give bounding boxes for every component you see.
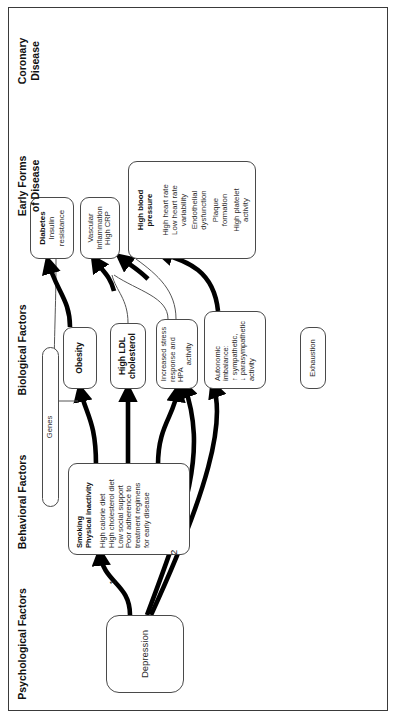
figure-page: Psychological Factors Behavioral Factors… (0, 0, 396, 718)
node-diabetes-line-2: resistance (57, 210, 66, 246)
node-ldl[interactable]: High LDL cholesterol (110, 323, 146, 389)
arrow-behavior-to-obesity (80, 389, 96, 465)
column-header-coronary-line1: Coronary (16, 15, 29, 107)
node-autonomic[interactable]: Autonomic imbalance: ↑ sympathetic, ↓ pa… (204, 311, 266, 389)
node-exhaustion[interactable]: Exhaustion (300, 327, 326, 389)
arrow-autonomic-to-bp (160, 253, 218, 311)
figure-frame: Psychological Factors Behavioral Factors… (8, 7, 388, 711)
node-obesity-heading: Obesity (75, 342, 85, 374)
node-stress[interactable]: Increased stress response and HPA activi… (156, 319, 198, 389)
node-vascular-line-3: High CRP (104, 211, 113, 245)
arrow-behavior-to-stress (158, 389, 178, 465)
node-stress-line-3: activity (185, 343, 193, 366)
node-bp-line-9: activity (242, 198, 251, 222)
node-blood-pressure[interactable]: High blood pressure High heart rate Low … (128, 161, 256, 259)
column-header-early-line2: of Disease (29, 131, 42, 241)
arrow-stress-to-bp (120, 257, 148, 279)
node-obesity[interactable]: Obesity (63, 327, 97, 389)
node-bp-heading-2: pressure (146, 194, 155, 227)
node-autonomic-line-5: activity (248, 318, 256, 381)
column-header-early-line1: Early Forms (16, 131, 29, 241)
node-stress-line-2: response and HPA (169, 326, 186, 382)
node-behavior-heading-2: Physical inactivity (85, 470, 94, 548)
node-behavior[interactable]: Smoking Physical inactivity High calorie… (68, 463, 190, 555)
node-diabetes-line-1: Insulin (47, 216, 56, 239)
node-ldl-heading-2: cholesterol (128, 333, 138, 379)
diagram-canvas: Psychological Factors Behavioral Factors… (8, 7, 388, 711)
line-stress-to-bp (136, 259, 176, 319)
node-bp-line-5: dysfunction (200, 190, 209, 229)
node-genes[interactable]: Genes (42, 347, 59, 507)
node-genes-label: Genes (46, 416, 55, 438)
column-header-psychological: Psychological Factors (16, 585, 29, 703)
node-vascular[interactable]: Vascular Inflammation High CRP (80, 197, 120, 259)
node-exhaustion-label: Exhaustion (309, 339, 318, 377)
arrow-to-vascular (94, 259, 114, 291)
node-depression[interactable]: Depression (106, 615, 184, 693)
node-bp-line-7: formation (221, 194, 230, 227)
arrow-label-1: 1 (107, 580, 118, 585)
column-header-biological: Biological Factors (16, 291, 29, 409)
arrow-obesity-to-diabetes (48, 261, 70, 327)
node-behavior-line-6: for early disease (143, 470, 152, 548)
node-bp-line-3: variability (180, 194, 189, 227)
column-header-coronary-line2: Disease (29, 15, 42, 107)
column-header-coronary: Coronary Disease (16, 15, 41, 107)
column-header-early-forms: Early Forms of Disease (16, 131, 41, 241)
column-header-behavioral: Behavioral Factors (16, 443, 29, 561)
node-depression-label: Depression (140, 630, 151, 678)
arrow-label-2: 2 (168, 550, 179, 555)
